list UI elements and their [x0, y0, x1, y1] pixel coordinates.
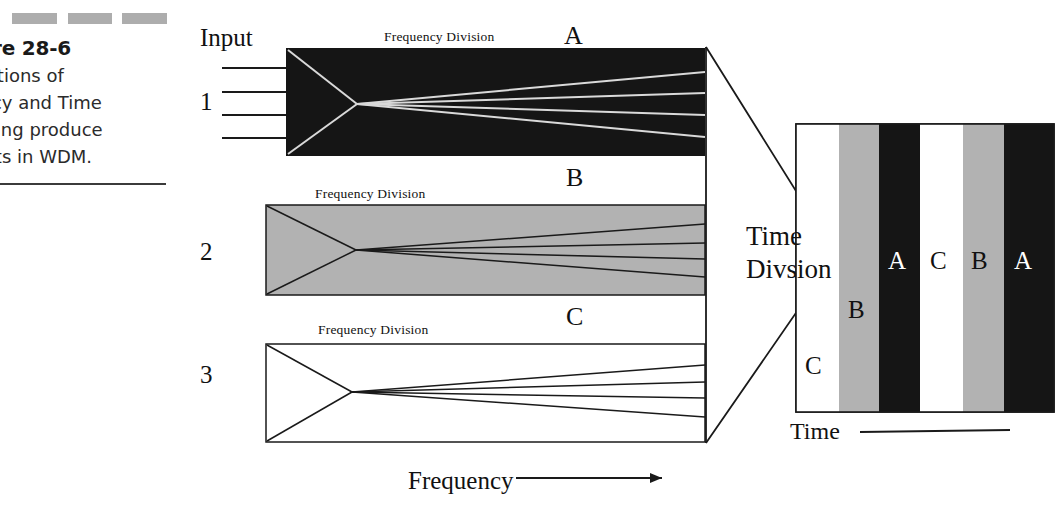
band-c-fill [266, 344, 705, 442]
output-bar-label: A [888, 247, 906, 275]
frequency-division-label-c: Frequency Division [318, 322, 428, 338]
band-b-fill [266, 205, 705, 295]
output-bar-label: A [1014, 247, 1032, 275]
output-bar [839, 124, 879, 412]
band-letter-b: B [566, 163, 583, 193]
band-letter-a: A [564, 21, 583, 51]
figure-canvas: ure 28-6 binations of uency and Time ple… [0, 0, 1063, 520]
frequency-axis [516, 473, 662, 483]
time-axis-line [860, 430, 1010, 432]
output-bar-label: C [805, 352, 822, 380]
input-group-number-2: 2 [200, 238, 213, 266]
frequency-axis-arrowhead [650, 473, 662, 483]
input-group-number-3: 3 [200, 361, 213, 389]
frequency-division-label-a: Frequency Division [384, 29, 494, 45]
time-division-label: Time Divsion [746, 220, 832, 286]
output-bar-label: C [930, 247, 947, 275]
frequency-division-label-b: Frequency Division [315, 186, 425, 202]
input-lines-group-1 [222, 68, 286, 138]
frequency-band-a [286, 48, 705, 156]
frequency-axis-label: Frequency [408, 467, 514, 495]
time-axis-label: Time [790, 418, 840, 445]
input-group-number-1: 1 [200, 88, 213, 116]
time-axis [860, 430, 1010, 432]
output-bar-label: B [848, 296, 865, 324]
band-letter-c: C [566, 302, 583, 332]
frequency-band-b [266, 205, 705, 295]
output-bar-label: B [971, 247, 988, 275]
band-a-fill [286, 48, 705, 156]
input-label: Input [200, 24, 253, 52]
frequency-band-c [266, 344, 705, 442]
